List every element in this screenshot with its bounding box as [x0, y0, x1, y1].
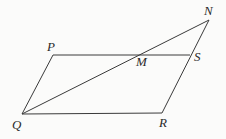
- label-s: S: [194, 49, 201, 64]
- segment-rn: [162, 20, 209, 113]
- label-m: M: [135, 54, 148, 69]
- diagram-svg: P Q R S M N: [0, 0, 226, 139]
- label-n: N: [203, 3, 214, 18]
- segment-qr: [22, 113, 162, 114]
- geometry-diagram: P Q R S M N: [0, 0, 226, 139]
- label-p: P: [46, 39, 55, 54]
- label-r: R: [158, 115, 167, 130]
- segment-qn: [22, 20, 209, 114]
- segment-pq: [22, 55, 53, 114]
- label-q: Q: [12, 117, 22, 132]
